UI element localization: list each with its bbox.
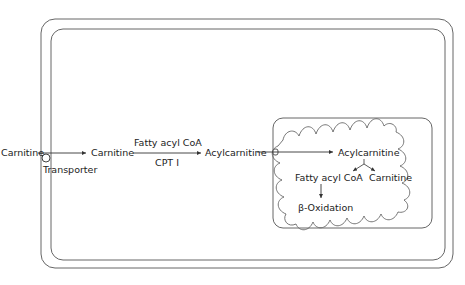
cell-inner-membrane bbox=[51, 29, 445, 260]
label-acylcarnitine-matrix: Acylcarnitine bbox=[338, 148, 400, 158]
arrow-to-fatty-acyl-coa bbox=[353, 164, 364, 171]
diagram-canvas bbox=[0, 0, 465, 285]
label-fatty-acyl-coa-matrix: Fatty acyl CoA bbox=[295, 173, 363, 183]
label-carnitine-outside: Carnitine bbox=[1, 148, 44, 158]
label-carnitine-matrix: Carnitine bbox=[369, 173, 412, 183]
label-acylcarnitine-cytosol: Acylcarnitine bbox=[205, 148, 267, 158]
label-beta-oxidation: β-Oxidation bbox=[298, 203, 353, 213]
label-fatty-acyl-coa-enzyme: Fatty acyl CoA bbox=[134, 138, 202, 148]
cell-outer-membrane bbox=[41, 19, 453, 268]
label-carnitine-cytosol: Carnitine bbox=[91, 148, 134, 158]
label-cpt1: CPT I bbox=[155, 158, 179, 168]
label-transporter: Transporter bbox=[43, 165, 97, 175]
arrow-to-carnitine bbox=[364, 164, 375, 171]
